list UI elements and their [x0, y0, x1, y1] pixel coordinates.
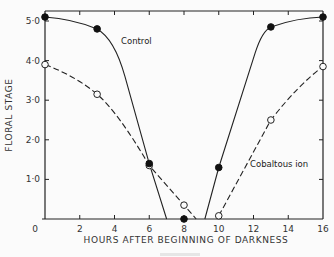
x-tick-label: 12	[248, 224, 259, 234]
x-axis-ticks: 0246810121416	[32, 11, 329, 234]
series-lines	[45, 17, 323, 219]
y-tick-label: 4·0	[26, 56, 41, 66]
figure-caption	[160, 253, 200, 256]
x-axis-label: HOURS AFTER BEGINNING OF DARKNESS	[84, 235, 289, 245]
control-marker	[42, 14, 49, 21]
cobaltous-marker	[94, 91, 101, 98]
x-tick-label: 14	[283, 224, 295, 234]
series-markers	[42, 14, 327, 223]
control-series-label: Control	[121, 36, 152, 46]
x-tick-label: 0	[32, 224, 38, 234]
x-tick-label: 6	[146, 224, 152, 234]
control-marker	[268, 24, 275, 31]
cobaltous-series-label: Cobaltous ion	[250, 159, 308, 169]
y-axis-label: FLORAL STAGE	[4, 78, 14, 151]
cobaltous-marker	[215, 213, 222, 220]
control-marker	[215, 164, 222, 171]
cobaltous-marker	[42, 61, 49, 68]
cobaltous-marker	[320, 63, 327, 70]
control-marker	[94, 26, 101, 33]
x-tick-label: 2	[77, 224, 83, 234]
y-tick-label: 2·0	[26, 135, 41, 145]
control-marker	[181, 216, 188, 223]
x-tick-label: 8	[181, 224, 187, 234]
control-marker	[320, 14, 327, 21]
chart: 0246810121416 1·02·03·04·05·0 HOURS AFTE…	[0, 0, 334, 257]
cobaltous-line	[45, 65, 323, 219]
control-line	[45, 17, 323, 219]
cobaltous-marker	[181, 202, 188, 209]
x-tick-label: 10	[213, 224, 225, 234]
x-tick-label: 16	[317, 224, 329, 234]
y-tick-label: 3·0	[26, 95, 41, 105]
y-tick-label: 1·0	[26, 174, 41, 184]
y-tick-label: 5·0	[26, 16, 41, 26]
x-tick-label: 4	[112, 224, 118, 234]
cobaltous-marker	[268, 117, 275, 124]
plot-frame	[42, 11, 323, 219]
control-marker	[146, 160, 153, 167]
